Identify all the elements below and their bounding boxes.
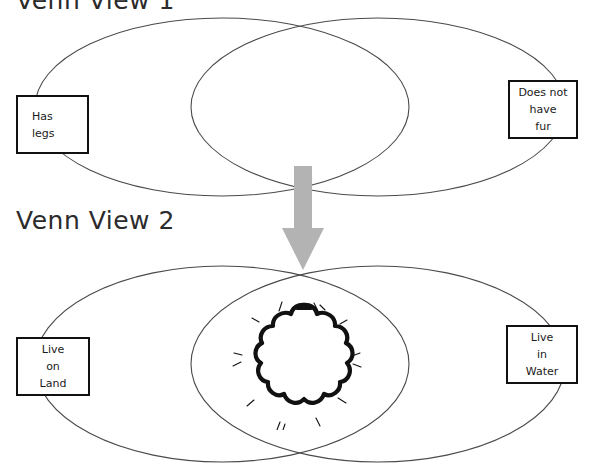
label-line: on <box>46 358 60 375</box>
label-box-live-in-water[interactable]: Live in Water <box>506 325 578 384</box>
label-line: Has <box>32 108 53 125</box>
cloud-burst-highlight <box>232 300 362 434</box>
label-box-does-not-have-fur[interactable]: Does not have fur <box>508 80 578 139</box>
label-line: in <box>537 346 547 363</box>
label-line: Does not <box>518 84 567 101</box>
label-line: Live <box>42 341 64 358</box>
label-line: Land <box>40 375 67 392</box>
label-line: legs <box>32 125 55 142</box>
label-line: Live <box>531 329 553 346</box>
label-box-live-on-land[interactable]: Live on Land <box>16 337 90 396</box>
label-box-has-legs[interactable]: Has legs <box>16 95 89 154</box>
label-line: have <box>530 101 557 118</box>
label-line: fur <box>535 118 550 135</box>
label-line: Water <box>526 363 559 380</box>
down-arrow-icon <box>276 166 330 272</box>
venn-diagram-canvas: Venn View 1 Has legs Does not have fur V… <box>0 0 593 468</box>
cloud-burst-icon <box>232 300 362 430</box>
down-arrow <box>276 166 330 276</box>
